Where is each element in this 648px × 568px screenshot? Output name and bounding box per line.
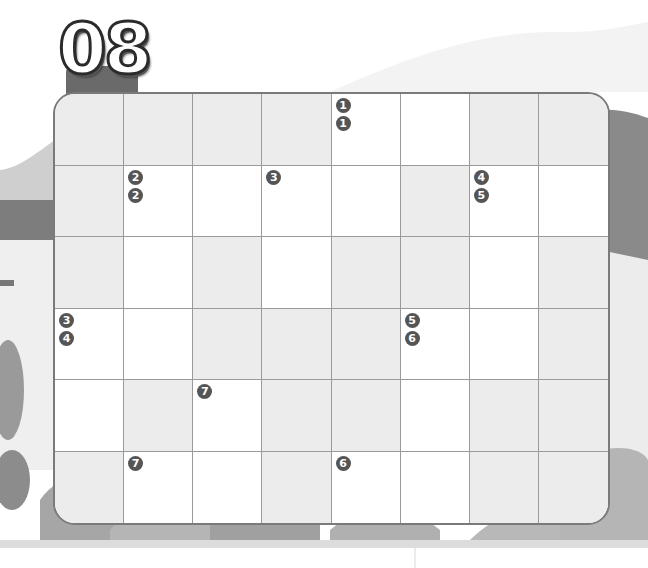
clue-number-badge: 1	[336, 98, 351, 113]
blocked-cell	[55, 452, 124, 524]
answer-cell[interactable]: 7	[124, 452, 193, 524]
clue-number-badge: 2	[128, 188, 143, 203]
crossword-page: 08 11223453456776	[0, 0, 648, 568]
answer-cell[interactable]	[193, 452, 262, 524]
blocked-cell	[470, 94, 539, 166]
blocked-cell	[539, 94, 608, 166]
answer-cell[interactable]	[470, 237, 539, 309]
clue-numbers: 11	[336, 98, 351, 131]
answer-cell[interactable]	[401, 94, 470, 166]
clue-numbers: 6	[336, 456, 351, 471]
clue-numbers: 45	[474, 170, 489, 203]
clue-number-badge: 6	[405, 331, 420, 346]
answer-cell[interactable]	[332, 166, 401, 238]
blocked-cell	[55, 237, 124, 309]
blocked-cell	[262, 380, 331, 452]
clue-number-badge: 7	[197, 384, 212, 399]
blocked-cell	[55, 166, 124, 238]
clue-numbers: 34	[59, 313, 74, 346]
blocked-cell	[193, 94, 262, 166]
clue-numbers: 56	[405, 313, 420, 346]
answer-cell[interactable]	[55, 380, 124, 452]
answer-cell[interactable]	[193, 166, 262, 238]
blocked-cell	[401, 166, 470, 238]
blocked-cell	[539, 452, 608, 524]
answer-cell[interactable]	[124, 309, 193, 381]
answer-cell[interactable]	[124, 237, 193, 309]
crossword-grid: 11223453456776	[55, 94, 608, 523]
puzzle-number: 08	[58, 14, 149, 84]
answer-cell[interactable]: 11	[332, 94, 401, 166]
clue-number-badge: 7	[128, 456, 143, 471]
answer-cell[interactable]: 3	[262, 166, 331, 238]
clue-number-badge: 4	[474, 170, 489, 185]
clue-number-badge: 5	[474, 188, 489, 203]
blocked-cell	[193, 309, 262, 381]
blocked-cell	[193, 237, 262, 309]
blocked-cell	[470, 380, 539, 452]
blocked-cell	[401, 237, 470, 309]
clue-number-badge: 5	[405, 313, 420, 328]
clue-numbers: 7	[128, 456, 143, 471]
blocked-cell	[124, 94, 193, 166]
clue-number-badge: 2	[128, 170, 143, 185]
blocked-cell	[262, 309, 331, 381]
clue-number-badge: 3	[266, 170, 281, 185]
blocked-cell	[262, 452, 331, 524]
clue-number-badge: 3	[59, 313, 74, 328]
answer-cell[interactable]: 22	[124, 166, 193, 238]
blocked-cell	[262, 94, 331, 166]
answer-cell[interactable]: 56	[401, 309, 470, 381]
crossword-board: 11223453456776	[53, 92, 610, 525]
answer-cell[interactable]	[401, 452, 470, 524]
blocked-cell	[332, 237, 401, 309]
blocked-cell	[332, 309, 401, 381]
answer-cell[interactable]	[262, 237, 331, 309]
blocked-cell	[539, 380, 608, 452]
answer-cell[interactable]: 7	[193, 380, 262, 452]
clue-numbers: 7	[197, 384, 212, 399]
answer-cell[interactable]	[539, 166, 608, 238]
blocked-cell	[470, 452, 539, 524]
clue-number-badge: 1	[336, 116, 351, 131]
clue-number-badge: 4	[59, 331, 74, 346]
answer-cell[interactable]: 34	[55, 309, 124, 381]
blocked-cell	[124, 380, 193, 452]
clue-numbers: 22	[128, 170, 143, 203]
answer-cell[interactable]: 45	[470, 166, 539, 238]
clue-numbers: 3	[266, 170, 281, 185]
answer-cell[interactable]	[401, 380, 470, 452]
blocked-cell	[55, 94, 124, 166]
answer-cell[interactable]: 6	[332, 452, 401, 524]
blocked-cell	[539, 237, 608, 309]
answer-cell[interactable]	[470, 309, 539, 381]
blocked-cell	[332, 380, 401, 452]
clue-number-badge: 6	[336, 456, 351, 471]
blocked-cell	[539, 309, 608, 381]
